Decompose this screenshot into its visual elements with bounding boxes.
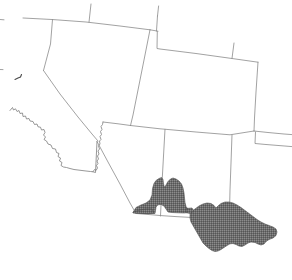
map-canvas bbox=[0, 0, 292, 280]
map-figure: Southwestern United States and Northern … bbox=[0, 0, 292, 280]
